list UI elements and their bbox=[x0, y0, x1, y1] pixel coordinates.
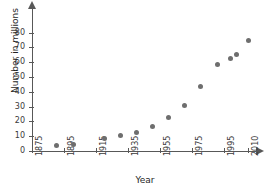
x-axis-tick-label: 1955 bbox=[164, 136, 172, 156]
scatter-chart: 01020304050607080 1875189519151935195519… bbox=[0, 0, 272, 188]
data-point bbox=[166, 115, 171, 120]
y-axis-arrow-icon bbox=[28, 1, 36, 9]
data-point bbox=[150, 124, 155, 129]
data-point bbox=[102, 136, 107, 141]
x-axis-tick bbox=[32, 148, 33, 153]
x-axis-tick bbox=[248, 148, 249, 153]
data-point bbox=[118, 133, 123, 138]
x-axis-tick-label: 1975 bbox=[196, 136, 204, 156]
y-axis-tick bbox=[29, 136, 34, 137]
y-axis-tick bbox=[29, 92, 34, 93]
x-axis-tick bbox=[160, 148, 161, 153]
x-axis-tick-label: 1935 bbox=[132, 136, 140, 156]
data-point bbox=[215, 62, 220, 67]
y-axis-tick-label: 20 bbox=[4, 117, 25, 125]
x-axis-tick bbox=[192, 148, 193, 153]
plot-area: 01020304050607080 1875189519151935195519… bbox=[0, 0, 272, 188]
data-point bbox=[71, 142, 76, 147]
data-point bbox=[182, 103, 187, 108]
y-axis-tick bbox=[29, 121, 34, 122]
y-axis-tick bbox=[29, 77, 34, 78]
x-axis-tick bbox=[64, 148, 65, 153]
x-axis-tick-label: 2010 bbox=[252, 136, 260, 156]
y-axis-tick bbox=[29, 62, 34, 63]
x-axis-title: Year bbox=[32, 176, 258, 185]
x-axis-tick bbox=[128, 148, 129, 153]
y-axis-tick bbox=[29, 47, 34, 48]
data-point bbox=[228, 56, 233, 61]
x-axis-tick bbox=[224, 148, 225, 153]
data-point bbox=[54, 143, 59, 148]
data-point bbox=[134, 130, 139, 135]
y-axis-line bbox=[32, 8, 33, 152]
y-axis-tick-label: 10 bbox=[4, 132, 25, 140]
x-axis-tick-label: 1875 bbox=[36, 136, 44, 156]
y-axis-tick bbox=[29, 107, 34, 108]
data-point bbox=[234, 52, 239, 57]
x-axis-tick-label: 1995 bbox=[228, 136, 236, 156]
data-point bbox=[198, 84, 203, 89]
y-axis-tick bbox=[29, 33, 34, 34]
x-axis-tick bbox=[96, 148, 97, 153]
y-axis-tick-label: 0 bbox=[4, 147, 25, 155]
y-axis-title: Number in millions bbox=[11, 0, 20, 106]
data-point bbox=[246, 38, 251, 43]
